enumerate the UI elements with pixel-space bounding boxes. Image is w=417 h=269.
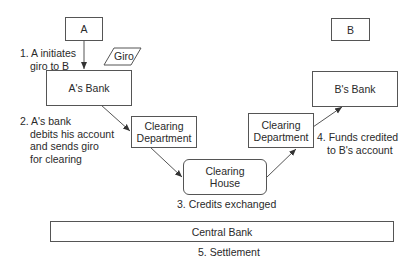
step-5-label: 5. Settlement [198, 246, 260, 259]
step-3-label: 3. Credits exchanged [177, 198, 276, 211]
node-a-bank: A's Bank [46, 70, 132, 106]
clearing-dept-right-line1: Clearing [254, 119, 309, 131]
arrow-clearing-dept-to-bbank [313, 107, 342, 127]
node-clearing-department-left: ClearingDepartment [131, 116, 197, 148]
step-4-label: 4. Funds creditedto B's account [317, 131, 398, 156]
giro-document-label: Giro [110, 50, 138, 62]
step-2-label: 2. A's bank debits his account and sends… [20, 115, 114, 165]
arrow-house-to-clearing-dept [267, 149, 296, 177]
node-central-bank-label: Central Bank [192, 226, 253, 238]
step-1-label: 1. A initiatesgiro to B [20, 47, 76, 72]
arrow-clearing-dept-to-house [150, 147, 182, 177]
node-b-bank-label: B's Bank [334, 83, 375, 95]
node-a-bank-label: A's Bank [68, 82, 109, 94]
clearing-dept-right-line2: Department [254, 131, 309, 143]
node-clearing-house: ClearingHouse [183, 159, 267, 195]
node-central-bank: Central Bank [50, 221, 394, 242]
node-b: B [331, 18, 370, 41]
node-a-label: A [80, 23, 87, 35]
node-clearing-department-right: ClearingDepartment [248, 113, 314, 148]
node-b-label: B [347, 24, 354, 36]
clearing-dept-left-line2: Department [137, 132, 192, 144]
clearing-house-line2: House [205, 177, 244, 189]
node-b-bank: B's Bank [312, 71, 398, 107]
clearing-dept-left-line1: Clearing [137, 120, 192, 132]
node-a: A [65, 17, 103, 41]
clearing-house-line1: Clearing [205, 165, 244, 177]
